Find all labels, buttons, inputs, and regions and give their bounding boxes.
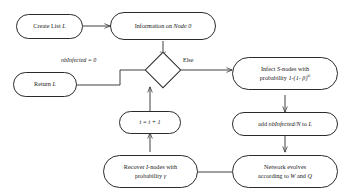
node-infect-s-nodes[interactable]: Infect S-nodes with probability 1-(1- β)… [232, 57, 338, 90]
edge-label-else: Else [183, 57, 193, 63]
recover-line-1: Recover I-nodes with [124, 163, 177, 170]
edge-label-nbinfected-zero: nbInfected = 0 [61, 57, 96, 63]
node-network-evolves[interactable]: Network evolves according to W and Q [232, 155, 338, 188]
node-network-evolves-label: Network evolves according to W and Q [258, 163, 312, 179]
node-add-to-list[interactable]: add nbInfected/N to L [232, 112, 338, 136]
flowchart-canvas: Create List L Information on Node 0 nbIn… [0, 0, 340, 195]
node-infect-s-nodes-label: Infect S-nodes with probability 1-(1- β)… [260, 65, 311, 81]
node-recover-i-nodes[interactable]: Recover I-nodes with probability γ [103, 155, 198, 188]
node-add-to-list-label: add nbInfected/N to L [258, 120, 312, 128]
infect-line-1: Infect S-nodes with [261, 65, 309, 72]
node-create-list[interactable]: Create List L [16, 14, 83, 39]
node-return-list-label: Return L [34, 80, 56, 88]
node-return-list[interactable]: Return L [13, 72, 77, 97]
node-decision-diamond[interactable] [145, 52, 182, 89]
recover-line-2: probability γ [135, 172, 166, 179]
network-line-2: according to W and Q [258, 172, 312, 179]
edge-decision-to-return [66, 70, 150, 85]
node-information-label: Information on Node 0 [135, 22, 192, 30]
node-create-list-label: Create List L [33, 22, 65, 30]
infect-line-2: probability 1-(1- β)ki [260, 74, 311, 81]
network-line-1: Network evolves [264, 163, 306, 170]
node-increment-time-label: t = t + 1 [139, 118, 160, 126]
node-information-on-node-0[interactable]: Information on Node 0 [110, 12, 216, 40]
node-recover-i-nodes-label: Recover I-nodes with probability γ [124, 163, 177, 179]
node-increment-time[interactable]: t = t + 1 [119, 111, 181, 134]
